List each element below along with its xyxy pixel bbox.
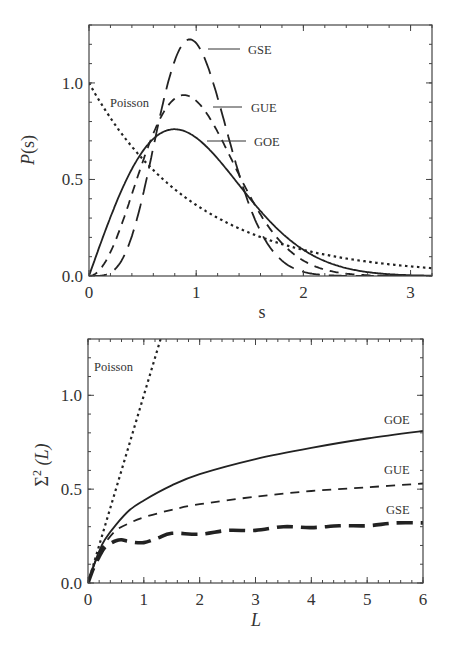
bottom-label-gue: GUE	[384, 463, 410, 477]
x-tick-label: 1	[140, 590, 149, 609]
x-tick-label: 3	[406, 283, 415, 302]
top-y-axis-title: P(s)	[18, 135, 39, 166]
bottom-curves	[88, 339, 423, 583]
top-x-axis-title: s	[258, 302, 265, 322]
top-plot-frame	[89, 25, 432, 276]
bottom-x-axis-title: L	[250, 610, 261, 630]
top-label-gue: GUE	[251, 101, 277, 115]
curve-poisson	[88, 339, 161, 583]
x-tick-label: 3	[251, 590, 260, 609]
x-tick-label: 2	[299, 283, 308, 302]
x-tick-label: 1	[192, 283, 201, 302]
curve-gue	[88, 484, 423, 584]
x-tick-label: 5	[363, 590, 372, 609]
figure: 01230.00.51.0 s P(s) Poisson GSE GUE GOE…	[0, 0, 453, 658]
x-tick-label: 2	[195, 590, 204, 609]
curve-gue	[89, 95, 432, 276]
x-tick-label: 6	[419, 590, 428, 609]
curve-goe	[89, 129, 432, 276]
x-tick-label: 0	[84, 590, 93, 609]
spacing-distribution-chart: 01230.00.51.0 s P(s) Poisson GSE GUE GOE	[18, 25, 432, 322]
bottom-label-gse: GSE	[386, 503, 410, 517]
number-variance-chart: 01234560.00.51.0 L Σ2 (L) Poisson GOE GU…	[30, 339, 427, 630]
curve-goe	[88, 431, 423, 583]
y-tick-label: 1.0	[61, 386, 82, 405]
top-ticks	[89, 25, 432, 276]
bottom-plot-frame	[88, 339, 423, 583]
y-tick-label: 0.0	[61, 574, 82, 593]
y-tick-label: 0.5	[61, 480, 82, 499]
y-tick-label: 1.0	[62, 74, 83, 93]
x-tick-label: 0	[85, 283, 94, 302]
x-tick-label: 4	[307, 590, 316, 609]
top-label-goe: GOE	[254, 135, 280, 149]
curve-gse	[88, 523, 423, 583]
bottom-y-axis-title: Σ2 (L)	[30, 444, 53, 487]
top-curves	[89, 39, 432, 276]
bottom-ticks	[88, 339, 423, 583]
top-label-poisson: Poisson	[110, 96, 150, 110]
y-tick-label: 0.5	[62, 170, 83, 189]
top-label-gse: GSE	[248, 43, 272, 57]
y-tick-label: 0.0	[62, 267, 83, 286]
bottom-label-poisson: Poisson	[94, 360, 134, 374]
bottom-label-goe: GOE	[384, 413, 410, 427]
